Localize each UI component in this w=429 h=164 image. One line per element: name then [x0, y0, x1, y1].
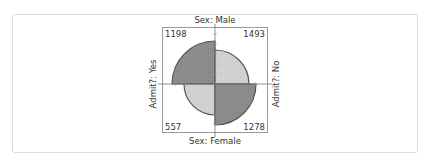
- quadrant-bottom-left: [184, 84, 215, 115]
- count-top-right: 1493: [243, 29, 265, 39]
- right-label: Admit?: No: [271, 61, 281, 108]
- count-bottom-left: 557: [165, 122, 181, 132]
- bottom-label: Sex: Female: [189, 136, 241, 146]
- count-bottom-right: 1278: [243, 122, 265, 132]
- top-label: Sex: Male: [194, 15, 235, 25]
- quadrant-bottom-right: [215, 84, 256, 125]
- left-label: Admit?: Yes: [148, 59, 158, 108]
- quadrant-top-left: [172, 41, 215, 84]
- fourfold-plot: Sex: Male Sex: Female Admit?: Yes Admit?…: [0, 0, 429, 164]
- count-top-left: 1198: [165, 29, 187, 39]
- quadrant-top-right: [215, 50, 249, 84]
